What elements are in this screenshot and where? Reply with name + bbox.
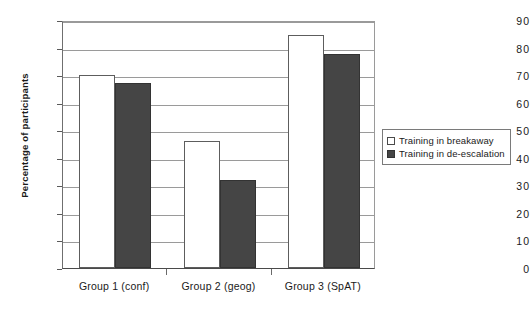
- open-square-swatch: [387, 137, 395, 145]
- plot-area: [62, 21, 375, 269]
- bar: [115, 83, 151, 268]
- bar-chart: Percentage of participants 0102030405060…: [0, 0, 530, 311]
- y-axis-tick-label: 60: [484, 98, 530, 110]
- y-axis-tick-label: 90: [484, 15, 530, 27]
- bar: [324, 54, 360, 268]
- legend-item-label: Training in breakaway: [399, 135, 494, 146]
- y-axis-tick-label: 0: [484, 263, 530, 275]
- legend-item[interactable]: Training in de-escalation: [387, 147, 505, 160]
- x-axis-tick-mark: [166, 269, 167, 275]
- y-axis-tick-label: 30: [484, 180, 530, 192]
- gridline: [63, 50, 374, 51]
- x-axis-tick-label: Group 3 (SpAT): [285, 280, 361, 292]
- x-axis-tick-label: Group 1 (conf): [79, 280, 150, 292]
- legend-item[interactable]: Training in breakaway: [387, 134, 505, 147]
- bar: [288, 35, 324, 268]
- gridline: [63, 22, 374, 23]
- legend-item-label: Training in de-escalation: [399, 148, 505, 159]
- x-axis-tick-label: Group 2 (geog): [181, 280, 255, 292]
- y-axis-title: Percentage of participants: [19, 56, 30, 216]
- y-axis-tick-label: 10: [484, 235, 530, 247]
- bar: [79, 75, 115, 268]
- chart-legend: Training in breakaway Training in de-esc…: [382, 129, 511, 165]
- y-axis-tick-label: 70: [484, 70, 530, 82]
- y-axis-tick-label: 20: [484, 208, 530, 220]
- x-axis-tick-mark: [271, 269, 272, 275]
- bar: [220, 180, 256, 268]
- bar: [184, 141, 220, 268]
- y-axis-tick-label: 80: [484, 43, 530, 55]
- filled-square-swatch: [387, 150, 395, 158]
- y-axis-tick-mark: [57, 269, 62, 270]
